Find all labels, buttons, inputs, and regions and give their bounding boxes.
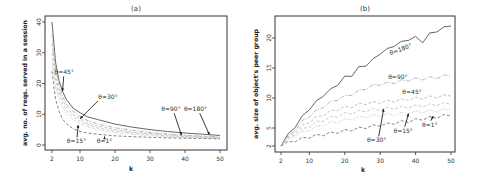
y-tick-label: 15 (265, 64, 272, 72)
y-tick-label: 0 (35, 143, 42, 147)
annotation-label: θ=90° (161, 105, 180, 112)
x-tick-label: 40 (181, 155, 189, 162)
panel-b-series (281, 26, 451, 146)
annotation-label: θ=1° (422, 121, 438, 128)
annotation-arrow (379, 109, 384, 137)
panel-b-y-axis: 25101520 (265, 34, 275, 148)
annotation-arrow (200, 113, 210, 135)
panel-b-x-axis: 21020304050 (279, 152, 455, 164)
annotation-label: θ=90° (388, 73, 407, 80)
figure: (a) 010203040 21020304050 θ=45°θ=30°θ=15… (0, 0, 479, 178)
annotation-label: θ=30° (98, 93, 117, 100)
annotation-arrow (80, 101, 98, 119)
x-tick-label: 10 (306, 157, 314, 164)
panel-a-y-label: avg. no. of reqs. served in a session (21, 20, 29, 146)
x-tick-label: 30 (376, 157, 384, 164)
annotation-label: θ=15° (67, 137, 86, 144)
series-line (281, 75, 451, 146)
panel-b-plot-frame (275, 16, 455, 152)
panel-a-series (52, 22, 220, 139)
panel-b-x-label: k (361, 166, 366, 173)
annotation-label: θ=180° (388, 42, 412, 56)
x-tick-label: 40 (412, 157, 420, 164)
x-tick-label: 30 (146, 155, 154, 162)
x-tick-label: 50 (216, 155, 224, 162)
series-line (52, 53, 220, 138)
y-tick-label: 2 (265, 144, 272, 148)
annotation-label: θ=45° (402, 88, 421, 95)
panel-a-title: (a) (131, 5, 141, 13)
panel-b-title: (b) (360, 5, 370, 13)
x-tick-label: 2 (279, 157, 283, 164)
panel-a-y-axis: 010203040 (35, 18, 45, 147)
x-tick-label: 10 (76, 155, 84, 162)
x-tick-label: 2 (50, 155, 54, 162)
x-tick-label: 50 (447, 157, 455, 164)
y-tick-label: 5 (265, 126, 272, 130)
annotation-label: θ=30° (367, 136, 386, 143)
series-line (52, 22, 220, 136)
y-tick-label: 20 (265, 34, 272, 42)
series-line (52, 44, 220, 138)
y-tick-label: 10 (35, 110, 42, 118)
panel-a-x-label: k (129, 165, 134, 172)
panel-a-x-axis: 21020304050 (50, 150, 224, 162)
y-tick-label: 40 (35, 18, 42, 26)
panel-b-annotations: θ=180°θ=90°θ=45°θ=30°θ=15°θ=1° (367, 42, 438, 144)
y-tick-label: 10 (265, 94, 272, 102)
x-tick-label: 20 (341, 157, 349, 164)
annotation-label: θ=45° (55, 68, 74, 75)
x-tick-label: 20 (111, 155, 119, 162)
panel-b-y-label: avg. size of object's peer group (252, 28, 260, 139)
annotation-label: θ=180° (184, 105, 207, 112)
y-tick-label: 30 (35, 49, 42, 57)
series-line (52, 34, 220, 137)
panel-a-chart: (a) 010203040 21020304050 θ=45°θ=30°θ=15… (21, 5, 227, 172)
panel-b-chart: (b) 25101520 21020304050 θ=180°θ=90°θ=45… (252, 5, 455, 173)
annotation-label: θ=15° (394, 127, 413, 134)
panel-a-plot-frame (45, 16, 227, 150)
y-tick-label: 20 (35, 80, 42, 88)
